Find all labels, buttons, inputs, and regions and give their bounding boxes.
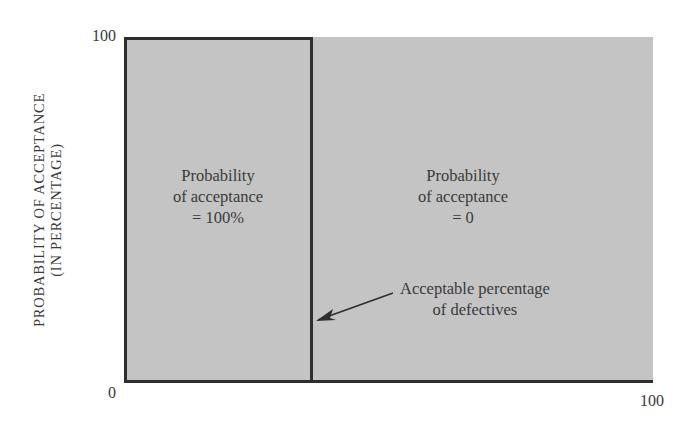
annotation-line2: of defectives: [400, 299, 550, 320]
y-axis-title-line2: (IN PERCENTAGE): [48, 93, 65, 327]
right-region-line2: of acceptance: [413, 186, 513, 207]
right-region-line1: Probability: [413, 165, 513, 186]
left-region-label: Probability of acceptance = 100%: [168, 165, 268, 228]
annotation-line1: Acceptable percentage: [400, 278, 550, 299]
y-axis-title: PROBABILITY OF ACCEPTANCE (IN PERCENTAGE…: [31, 93, 65, 327]
x-axis-baseline: [124, 380, 653, 383]
right-region-label: Probability of acceptance = 0: [413, 165, 513, 228]
y-axis-title-line1: PROBABILITY OF ACCEPTANCE: [31, 93, 48, 327]
left-region-line1: Probability: [168, 165, 268, 186]
x-tick-100: 100: [640, 392, 664, 410]
right-region-line3: = 0: [413, 207, 513, 228]
annotation-acceptable-percentage: Acceptable percentage of defectives: [400, 278, 550, 320]
y-tick-100: 100: [92, 27, 116, 45]
left-region-line2: of acceptance: [168, 186, 268, 207]
left-region-line3: = 100%: [168, 207, 268, 228]
y-tick-0: 0: [108, 384, 116, 402]
